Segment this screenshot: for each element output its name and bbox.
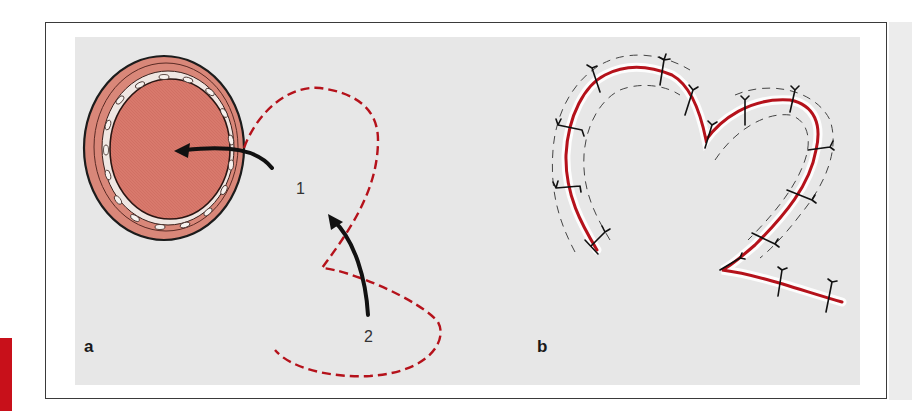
panel-b-label: b xyxy=(537,337,547,357)
step-1-label: 1 xyxy=(296,180,305,198)
figure-illustration xyxy=(0,0,912,411)
step-2-label: 2 xyxy=(364,328,373,346)
panel-a-label: a xyxy=(84,337,93,357)
panel-b-heart-incision xyxy=(552,54,842,312)
